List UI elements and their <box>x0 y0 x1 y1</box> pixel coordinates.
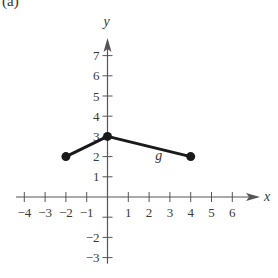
y-tick-label: 1 <box>93 169 100 184</box>
x-tick-label: 2 <box>146 205 153 220</box>
x-tick-label: −1 <box>80 205 94 220</box>
y-tick-label: 5 <box>93 89 100 104</box>
y-tick-label: −3 <box>86 250 100 265</box>
series-line <box>66 136 191 156</box>
x-tick-label: 5 <box>208 205 215 220</box>
data-point <box>61 152 70 161</box>
x-tick-label: −4 <box>17 205 31 220</box>
x-tick-label: 6 <box>229 205 236 220</box>
y-tick-label: 4 <box>93 109 100 124</box>
data-point <box>103 132 112 141</box>
x-tick-label: −3 <box>38 205 52 220</box>
function-graph: (a) xy −4−3−2−1123456−3−21234567 g <box>0 0 278 278</box>
series-g <box>61 132 195 161</box>
tick-labels: −4−3−2−1123456−3−21234567 <box>17 48 236 265</box>
axes: xy <box>16 14 271 264</box>
y-tick-label: 6 <box>93 68 100 83</box>
y-tick-label: 7 <box>93 48 100 63</box>
curve-label: g <box>155 148 162 163</box>
x-tick-label: 3 <box>167 205 174 220</box>
y-tick-label: 2 <box>93 149 100 164</box>
x-axis-label: x <box>263 189 271 204</box>
data-point <box>186 152 195 161</box>
tick-marks <box>24 56 232 258</box>
y-tick-label: −2 <box>86 230 100 245</box>
annotations: g <box>155 148 162 163</box>
y-axis-label: y <box>102 14 111 29</box>
panel-label: (a) <box>2 0 19 10</box>
x-tick-label: 4 <box>187 205 194 220</box>
x-tick-label: −2 <box>59 205 73 220</box>
x-tick-label: 1 <box>125 205 132 220</box>
